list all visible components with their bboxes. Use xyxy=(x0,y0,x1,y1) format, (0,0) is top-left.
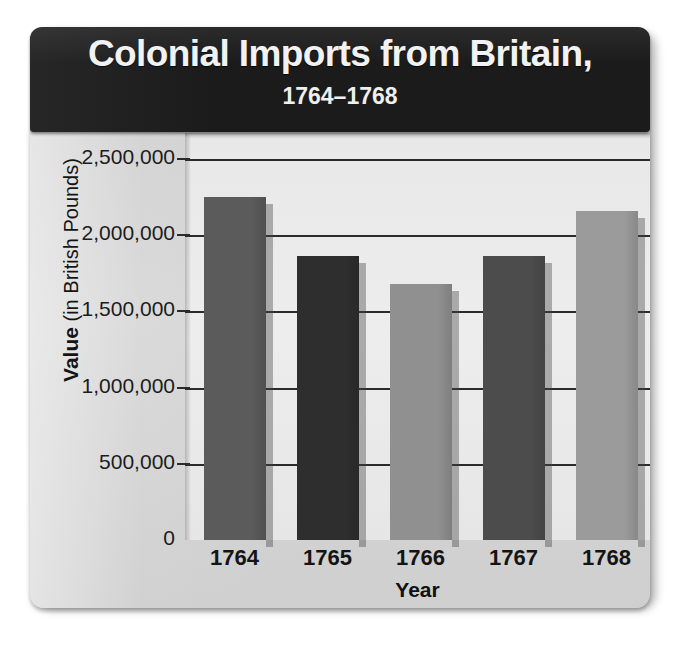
bar-shadow xyxy=(359,263,366,547)
y-tick-label: 1,500,000 xyxy=(25,297,175,321)
x-tick-label-1768: 1768 xyxy=(562,545,652,571)
bar-1765 xyxy=(297,256,359,540)
x-tick-label-1767: 1767 xyxy=(469,545,559,571)
y-tick-label: 1,000,000 xyxy=(25,374,175,398)
y-tick-label: 500,000 xyxy=(25,450,175,474)
x-tick-label-1766: 1766 xyxy=(376,545,466,571)
bar-shadow xyxy=(452,291,459,547)
chart-subtitle: 1764–1768 xyxy=(30,83,650,110)
y-tick-mark xyxy=(177,310,190,312)
bar-1767 xyxy=(483,256,545,540)
y-tick-label: 0 xyxy=(25,526,175,550)
y-tick-label: 2,500,000 xyxy=(25,145,175,169)
y-axis-title-strong: Value xyxy=(59,327,82,382)
bars-group xyxy=(185,133,650,540)
bar-1768 xyxy=(576,211,638,540)
y-axis-title: Value (in British Pounds) xyxy=(59,135,83,405)
y-tick-label: 2,000,000 xyxy=(25,221,175,245)
bar-shadow xyxy=(266,204,273,547)
y-tick-mark xyxy=(177,387,190,389)
x-axis-title: Year xyxy=(185,578,650,602)
x-tick-label-1764: 1764 xyxy=(190,545,280,571)
x-tick-label-1765: 1765 xyxy=(283,545,373,571)
bar-face xyxy=(390,284,452,540)
bar-face xyxy=(483,256,545,540)
y-axis-title-rest: (in British Pounds) xyxy=(60,158,82,327)
chart-figure: Colonial Imports from Britain, 1764–1768… xyxy=(0,0,679,645)
bar-shadow xyxy=(638,218,645,547)
bar-face xyxy=(297,256,359,540)
bar-face xyxy=(204,197,266,540)
bar-shadow xyxy=(545,263,552,547)
y-tick-mark xyxy=(177,463,190,465)
bar-1764 xyxy=(204,197,266,540)
title-banner: Colonial Imports from Britain, 1764–1768 xyxy=(30,27,650,132)
y-tick-mark xyxy=(177,234,190,236)
bar-1766 xyxy=(390,284,452,540)
y-tick-mark xyxy=(177,158,190,160)
bar-face xyxy=(576,211,638,540)
chart-title: Colonial Imports from Britain, xyxy=(30,34,650,75)
